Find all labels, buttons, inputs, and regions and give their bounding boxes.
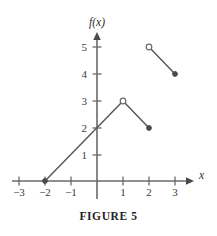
point-2-5-open-marker bbox=[146, 44, 152, 50]
point-1-3-open-marker bbox=[120, 98, 126, 104]
function-branch-3 bbox=[149, 47, 175, 74]
y-tick-label-3: 3 bbox=[82, 95, 88, 107]
x-axis-arrow-icon bbox=[186, 177, 194, 185]
y-tick-label-1: 1 bbox=[82, 149, 88, 161]
x-tick-label-neg3: −3 bbox=[13, 186, 25, 198]
x-tick-label-3: 3 bbox=[172, 186, 178, 198]
x-tick-label-neg1: −1 bbox=[65, 186, 77, 198]
point-neg2-0-closed-marker bbox=[43, 179, 48, 184]
x-tick-label-neg2: −2 bbox=[39, 186, 51, 198]
function-graph: −3 −2 −1 1 2 3 1 2 3 4 5 f(x) x bbox=[0, 0, 217, 236]
y-tick-label-4: 4 bbox=[82, 68, 88, 80]
figure-container: −3 −2 −1 1 2 3 1 2 3 4 5 f(x) x FIGURE 5 bbox=[0, 0, 217, 236]
figure-caption: FIGURE 5 bbox=[0, 210, 217, 222]
function-branch-1 bbox=[45, 101, 123, 181]
y-axis-label: f(x) bbox=[89, 16, 105, 29]
x-tick-label-1: 1 bbox=[120, 186, 126, 198]
x-axis-label: x bbox=[198, 169, 205, 181]
point-3-4-closed-marker bbox=[173, 72, 178, 77]
function-branch-2 bbox=[123, 101, 149, 128]
y-axis-arrow-icon bbox=[93, 32, 101, 40]
y-tick-label-5: 5 bbox=[82, 41, 88, 53]
y-tick-label-2: 2 bbox=[82, 122, 88, 134]
x-tick-label-2: 2 bbox=[146, 186, 152, 198]
point-2-2-closed-marker bbox=[147, 126, 152, 131]
